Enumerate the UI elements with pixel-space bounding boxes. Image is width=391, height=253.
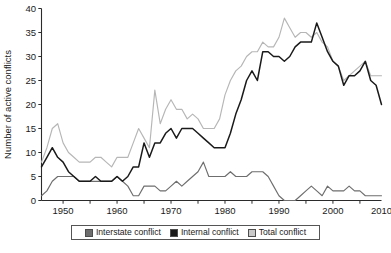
y-tick-label: 25 — [25, 75, 36, 86]
y-axis-title: Number of active conflicts — [2, 50, 13, 159]
legend-swatch-total — [248, 229, 256, 237]
y-tick-label: 0 — [31, 195, 36, 206]
x-tick-label: 1970 — [160, 205, 181, 216]
chart-figure: 0510152025303540 19501960197019801990200… — [0, 0, 391, 253]
y-tick-label: 35 — [25, 27, 36, 38]
y-tick-label: 15 — [25, 123, 36, 134]
series-lines — [42, 18, 382, 200]
y-axis-title-text: Number of active conflicts — [2, 50, 13, 159]
x-axis: 1950196019701980199020002010 — [42, 201, 391, 217]
legend-item-total: Total conflict — [248, 228, 306, 237]
x-tick-label: 1980 — [214, 205, 235, 216]
x-tick-label: 2000 — [322, 205, 343, 216]
x-tick-label: 1960 — [106, 205, 127, 216]
x-tick-label: 1990 — [268, 205, 289, 216]
y-axis: 0510152025303540 — [25, 3, 41, 206]
series-line-interstate-conflict — [42, 162, 382, 200]
legend-label-total: Total conflict — [259, 228, 306, 237]
legend-item-interstate: Interstate conflict — [85, 228, 161, 237]
y-tick-label: 10 — [25, 147, 36, 158]
series-line-internal-conflict — [42, 23, 382, 181]
chart-plot-area: 0510152025303540 19501960197019801990200… — [0, 0, 391, 253]
legend-swatch-interstate — [85, 229, 93, 237]
y-tick-label: 30 — [25, 51, 36, 62]
legend-item-internal: Internal conflict — [170, 228, 239, 237]
y-tick-label: 20 — [25, 99, 36, 110]
legend-label-interstate: Interstate conflict — [96, 228, 161, 237]
legend-label-internal: Internal conflict — [181, 228, 239, 237]
y-tick-label: 40 — [25, 3, 36, 14]
x-tick-label: 1950 — [53, 205, 74, 216]
legend-swatch-internal — [170, 229, 178, 237]
chart-legend: Interstate conflict Internal conflict To… — [71, 225, 320, 240]
y-tick-label: 5 — [31, 171, 36, 182]
x-tick-label: 2010 — [371, 205, 391, 216]
